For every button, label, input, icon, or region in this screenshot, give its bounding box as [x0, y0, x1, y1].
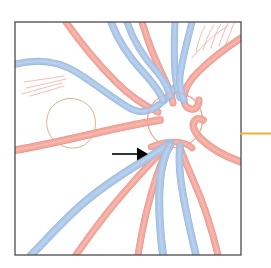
retinal-fundus-figure: [0, 0, 271, 268]
fundus-diagram-svg: [0, 0, 271, 268]
